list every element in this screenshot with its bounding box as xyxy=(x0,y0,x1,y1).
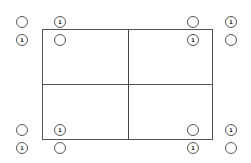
circle-label: 1 xyxy=(229,20,232,25)
circle-top-right-outer-top: 1 xyxy=(225,16,237,28)
circle-label: 1 xyxy=(191,146,194,151)
circle-bottom-left-inner-bottom xyxy=(54,142,66,154)
circle-top-right-inner-bottom: 1 xyxy=(187,34,199,46)
horizontal-divider xyxy=(43,84,212,85)
circle-label: 1 xyxy=(58,20,61,25)
circle-top-left-inner-top: 1 xyxy=(54,16,66,28)
circle-label: 1 xyxy=(58,128,61,133)
circle-bottom-left-inner-top: 1 xyxy=(54,124,66,136)
circle-bottom-left-outer-bottom: 1 xyxy=(16,142,28,154)
circle-label: 1 xyxy=(20,38,23,43)
circle-top-left-outer-top xyxy=(16,16,28,28)
circle-bottom-left-outer-top xyxy=(16,124,28,136)
diagram-canvas: 1 1 1 1 1 1 1 1 xyxy=(0,0,251,163)
circle-bottom-right-inner-bottom: 1 xyxy=(187,142,199,154)
circle-bottom-right-inner-top xyxy=(187,124,199,136)
circle-label: 1 xyxy=(20,146,23,151)
table-rectangle xyxy=(42,29,213,140)
circle-top-left-outer-bottom: 1 xyxy=(16,34,28,46)
circle-bottom-right-outer-top: 1 xyxy=(225,124,237,136)
circle-label: 1 xyxy=(191,38,194,43)
circle-top-right-outer-bottom xyxy=(225,34,237,46)
circle-label: 1 xyxy=(229,128,232,133)
circle-bottom-right-outer-bottom xyxy=(225,142,237,154)
circle-top-left-inner-bottom xyxy=(54,34,66,46)
circle-top-right-inner-top xyxy=(187,16,199,28)
